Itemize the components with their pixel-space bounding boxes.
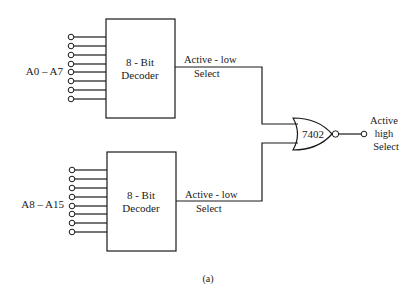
top-decoder-label-2: Decoder bbox=[121, 69, 159, 81]
bottom-input-label: A8 – A15 bbox=[21, 198, 64, 210]
output-label-2: high bbox=[375, 128, 394, 139]
input-pin-a13 bbox=[69, 211, 75, 217]
input-pin-a10 bbox=[69, 185, 75, 191]
top-decoder-input-pins bbox=[68, 34, 106, 102]
input-pin-a2 bbox=[68, 52, 74, 58]
output-label-1: Active bbox=[370, 115, 398, 126]
input-pin-a15 bbox=[69, 229, 75, 235]
input-pin-a14 bbox=[69, 220, 75, 226]
figure-caption: (a) bbox=[202, 273, 213, 285]
bottom-decoder-label-1: 8 - Bit bbox=[127, 189, 155, 201]
wires bbox=[175, 67, 298, 201]
bottom-decoder-label-2: Decoder bbox=[122, 202, 160, 214]
input-pin-a6 bbox=[68, 87, 74, 93]
input-pin-a0 bbox=[68, 34, 74, 40]
bottom-output-label-1: Active - low bbox=[185, 189, 238, 200]
nor-gate-inversion-bubble bbox=[332, 131, 338, 137]
input-pin-a3 bbox=[68, 61, 74, 67]
nor-gate-7402: 7402 bbox=[293, 118, 339, 150]
input-pin-a4 bbox=[68, 69, 74, 75]
top-output-label-1: Active - low bbox=[184, 54, 237, 65]
top-output-label-2: Select bbox=[194, 68, 220, 79]
top-decoder-label-1: 8 - Bit bbox=[126, 56, 154, 68]
input-pin-a7 bbox=[68, 96, 74, 102]
input-pin-a1 bbox=[68, 43, 74, 49]
output-label-3: Select bbox=[373, 141, 399, 152]
top-input-label: A0 – A7 bbox=[26, 65, 64, 77]
input-pin-a8 bbox=[69, 167, 75, 173]
input-pin-a5 bbox=[68, 78, 74, 84]
bottom-output-label-2: Select bbox=[196, 203, 222, 214]
input-pin-a12 bbox=[69, 203, 75, 209]
input-pin-a9 bbox=[69, 176, 75, 182]
logic-diagram: 8 - Bit Decoder A0 – A7 Active - low Sel… bbox=[0, 0, 411, 294]
output: Active high Select bbox=[339, 115, 399, 152]
output-terminal bbox=[361, 131, 367, 137]
input-pin-a11 bbox=[69, 194, 75, 200]
bottom-decoder-input-pins bbox=[69, 167, 107, 235]
top-decoder: 8 - Bit Decoder A0 – A7 Active - low Sel… bbox=[26, 19, 237, 118]
nor-gate-label: 7402 bbox=[302, 128, 324, 140]
